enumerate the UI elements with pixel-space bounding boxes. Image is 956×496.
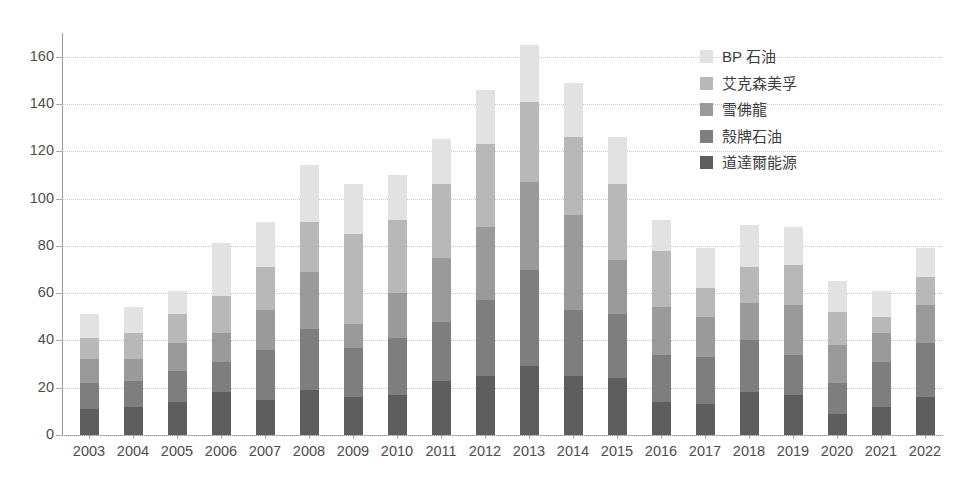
bar-segment[interactable] (432, 258, 451, 322)
bar-segment[interactable] (124, 381, 143, 407)
bar-segment[interactable] (696, 248, 715, 288)
bar-segment[interactable] (828, 414, 847, 435)
bar-2003[interactable] (80, 314, 99, 435)
bar-segment[interactable] (476, 300, 495, 376)
bar-2018[interactable] (740, 225, 759, 435)
legend-item[interactable]: 雪佛龍 (700, 101, 797, 118)
bar-2020[interactable] (828, 281, 847, 435)
bar-segment[interactable] (872, 291, 891, 317)
bar-segment[interactable] (432, 139, 451, 184)
bar-segment[interactable] (168, 291, 187, 315)
bar-segment[interactable] (872, 407, 891, 435)
bar-segment[interactable] (916, 248, 935, 276)
bar-segment[interactable] (828, 312, 847, 345)
bar-segment[interactable] (520, 270, 539, 367)
bar-2012[interactable] (476, 90, 495, 435)
bar-2011[interactable] (432, 139, 451, 435)
bar-segment[interactable] (168, 314, 187, 342)
bar-segment[interactable] (916, 343, 935, 397)
bar-segment[interactable] (564, 376, 583, 435)
legend-item[interactable]: 道達爾能源 (700, 154, 797, 171)
bar-segment[interactable] (520, 45, 539, 102)
bar-segment[interactable] (300, 165, 319, 222)
bar-segment[interactable] (476, 144, 495, 227)
bar-segment[interactable] (608, 184, 627, 260)
bar-segment[interactable] (256, 400, 275, 435)
bar-segment[interactable] (344, 348, 363, 398)
bar-segment[interactable] (520, 366, 539, 435)
bar-segment[interactable] (784, 305, 803, 355)
bar-segment[interactable] (344, 234, 363, 324)
bar-segment[interactable] (80, 314, 99, 338)
bar-segment[interactable] (256, 310, 275, 350)
bar-segment[interactable] (608, 314, 627, 378)
bar-segment[interactable] (872, 317, 891, 334)
bar-2021[interactable] (872, 291, 891, 435)
bar-segment[interactable] (256, 350, 275, 400)
bar-segment[interactable] (124, 359, 143, 380)
bar-segment[interactable] (520, 102, 539, 182)
bar-segment[interactable] (388, 175, 407, 220)
bar-segment[interactable] (476, 227, 495, 300)
bar-segment[interactable] (300, 222, 319, 272)
bar-segment[interactable] (344, 324, 363, 348)
legend-item[interactable]: BP 石油 (700, 48, 797, 65)
bar-segment[interactable] (80, 359, 99, 383)
bar-segment[interactable] (212, 296, 231, 334)
bar-segment[interactable] (784, 395, 803, 435)
bar-segment[interactable] (212, 333, 231, 361)
bar-segment[interactable] (828, 345, 847, 383)
bar-segment[interactable] (652, 355, 671, 402)
bar-segment[interactable] (828, 383, 847, 414)
bar-segment[interactable] (476, 376, 495, 435)
bar-segment[interactable] (124, 333, 143, 359)
bar-segment[interactable] (256, 222, 275, 267)
bar-segment[interactable] (872, 333, 891, 361)
bar-2004[interactable] (124, 307, 143, 435)
bar-2013[interactable] (520, 45, 539, 435)
bar-segment[interactable] (696, 404, 715, 435)
bar-2016[interactable] (652, 220, 671, 435)
bar-segment[interactable] (168, 343, 187, 371)
bar-segment[interactable] (608, 378, 627, 435)
bar-segment[interactable] (564, 137, 583, 215)
bar-segment[interactable] (652, 251, 671, 308)
bar-segment[interactable] (784, 265, 803, 305)
bar-segment[interactable] (432, 381, 451, 435)
bar-2014[interactable] (564, 83, 583, 435)
bar-segment[interactable] (916, 305, 935, 343)
bar-2022[interactable] (916, 248, 935, 435)
bar-segment[interactable] (740, 392, 759, 435)
bar-segment[interactable] (916, 277, 935, 305)
bar-segment[interactable] (520, 182, 539, 269)
bar-segment[interactable] (652, 307, 671, 354)
bar-segment[interactable] (80, 338, 99, 359)
bar-segment[interactable] (388, 220, 407, 293)
bar-segment[interactable] (388, 293, 407, 338)
bar-2010[interactable] (388, 175, 407, 435)
bar-segment[interactable] (80, 409, 99, 435)
bar-2009[interactable] (344, 184, 363, 435)
bar-segment[interactable] (652, 402, 671, 435)
bar-segment[interactable] (696, 288, 715, 316)
bar-segment[interactable] (608, 260, 627, 314)
bar-segment[interactable] (696, 357, 715, 404)
bar-segment[interactable] (872, 362, 891, 407)
bar-segment[interactable] (828, 281, 847, 312)
bar-segment[interactable] (564, 83, 583, 137)
bar-segment[interactable] (300, 390, 319, 435)
bar-segment[interactable] (388, 338, 407, 395)
bar-segment[interactable] (124, 307, 143, 333)
bar-segment[interactable] (388, 395, 407, 435)
bar-segment[interactable] (696, 317, 715, 357)
bar-2006[interactable] (212, 243, 231, 435)
bar-segment[interactable] (740, 225, 759, 268)
legend-item[interactable]: 艾克森美孚 (700, 75, 797, 92)
bar-2019[interactable] (784, 227, 803, 435)
bar-segment[interactable] (784, 355, 803, 395)
bar-segment[interactable] (740, 303, 759, 341)
bar-segment[interactable] (740, 340, 759, 392)
bar-2008[interactable] (300, 165, 319, 435)
bar-segment[interactable] (608, 137, 627, 184)
bar-segment[interactable] (168, 371, 187, 402)
